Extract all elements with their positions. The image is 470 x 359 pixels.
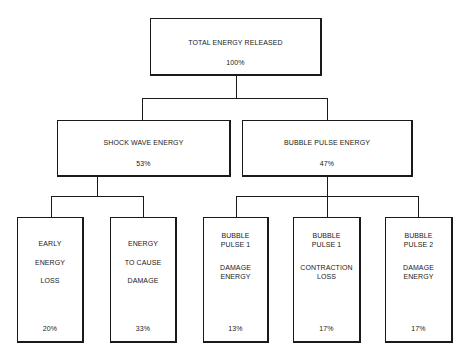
node-title: BUBBLE PULSE ENERGY <box>243 138 411 148</box>
node-line: ENERGY <box>204 272 267 282</box>
connector-to-bp1-damage <box>236 196 237 217</box>
node-percent: 47% <box>243 159 411 169</box>
connector-to-bp2-damage <box>418 196 419 217</box>
connector-to-shock-wave <box>142 98 143 120</box>
connector-level2-bar <box>142 98 328 99</box>
node-line: PULSE 1 <box>204 240 267 250</box>
node-total-energy: TOTAL ENERGY RELEASED 100% <box>150 18 322 76</box>
node-percent: 17% <box>386 324 451 334</box>
connector-to-early-loss <box>51 196 52 217</box>
node-line: PULSE 1 <box>294 240 359 250</box>
node-title: TOTAL ENERGY RELEASED <box>151 38 320 48</box>
node-energy-to-cause-damage: ENERGY TO CAUSE DAMAGE 33% <box>110 217 177 343</box>
node-percent: 100% <box>151 58 320 68</box>
connector-shock-down <box>97 176 98 196</box>
node-line: LOSS <box>18 276 82 286</box>
node-line: TO CAUSE <box>111 258 175 268</box>
node-percent: 20% <box>18 324 82 334</box>
node-line: LOSS <box>294 272 359 282</box>
node-percent: 53% <box>58 159 229 169</box>
node-bubble-pulse-1-contraction-loss: BUBBLE PULSE 1 CONTRACTION LOSS 17% <box>293 217 361 343</box>
connector-shock-bar <box>51 196 144 197</box>
node-line: ENERGY <box>111 239 175 249</box>
node-line: PULSE 2 <box>386 240 451 250</box>
node-title: SHOCK WAVE ENERGY <box>58 138 229 148</box>
node-bubble-pulse-energy: BUBBLE PULSE ENERGY 47% <box>242 120 413 177</box>
node-line: ENERGY <box>18 258 82 268</box>
node-bubble-pulse-2-damage-energy: BUBBLE PULSE 2 DAMAGE ENERGY 17% <box>385 217 453 343</box>
node-line: DAMAGE <box>111 276 175 286</box>
node-early-energy-loss: EARLY ENERGY LOSS 20% <box>17 217 84 343</box>
connector-bubble-bar <box>236 196 419 197</box>
node-percent: 13% <box>204 324 267 334</box>
connector-to-bubble-pulse <box>327 98 328 120</box>
connector-to-damage-energy <box>143 196 144 217</box>
node-line: EARLY <box>18 239 82 249</box>
node-shock-wave-energy: SHOCK WAVE ENERGY 53% <box>57 120 231 177</box>
node-percent: 33% <box>111 324 175 334</box>
node-percent: 17% <box>294 324 359 334</box>
node-bubble-pulse-1-damage-energy: BUBBLE PULSE 1 DAMAGE ENERGY 13% <box>203 217 269 343</box>
connector-root-down <box>236 75 237 98</box>
node-line: ENERGY <box>386 272 451 282</box>
